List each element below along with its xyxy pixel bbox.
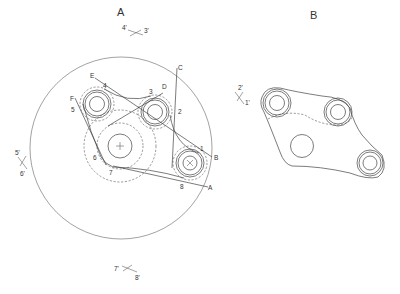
figure-b: B 2' 1' [235, 9, 384, 178]
mark-6-prime: 6' [20, 170, 25, 177]
mark-7-prime: 7' [114, 265, 119, 272]
line-label-c: C [178, 64, 183, 71]
point-label-4: 4 [103, 82, 107, 89]
construction-mark-bottom: 7' 8' [114, 265, 140, 281]
construction-mark-top: 4' 3' [122, 24, 149, 36]
plate-pulley-bottom-right [357, 150, 383, 176]
figure-a: A 4' 3' 5' 6' 7' 8' [15, 6, 218, 281]
line-label-b: B [214, 154, 218, 161]
point-label-2: 2 [178, 108, 182, 115]
point-label-7: 7 [109, 169, 113, 176]
mark-8-prime: 8' [135, 274, 140, 281]
construction-mark-left: 5' 6' [15, 149, 27, 177]
pulley-top-right [138, 95, 172, 129]
construction-mark-b: 2' 1' [235, 84, 250, 106]
outer-circle [30, 57, 212, 239]
line-labels: C D E F B A [70, 64, 218, 191]
figure-b-title: B [310, 9, 317, 21]
line-label-e: E [90, 72, 95, 79]
point-label-1: 1 [200, 145, 204, 152]
point-label-5: 5 [71, 106, 75, 113]
link-plate-outline [261, 88, 384, 178]
line-label-a: A [208, 184, 213, 191]
mark-5-prime: 5' [15, 149, 20, 156]
figure-a-title: A [117, 6, 125, 18]
plate-pulley-top-left [263, 89, 291, 117]
plate-center-hole [291, 135, 314, 158]
mark-3-prime: 3' [144, 27, 149, 34]
point-label-8: 8 [180, 183, 184, 190]
central-disc [84, 110, 156, 182]
point-label-6: 6 [93, 154, 97, 161]
mark-4-prime: 4' [122, 24, 127, 31]
mark-1-prime: 1' [245, 99, 250, 106]
point-label-3: 3 [149, 88, 153, 95]
plate-pulley-top-right [324, 98, 352, 126]
mark-2-prime: 2' [238, 84, 243, 91]
mechanism-diagram: A 4' 3' 5' 6' 7' 8' [0, 0, 400, 294]
line-label-f: F [70, 95, 74, 102]
line-label-d: D [162, 83, 167, 90]
